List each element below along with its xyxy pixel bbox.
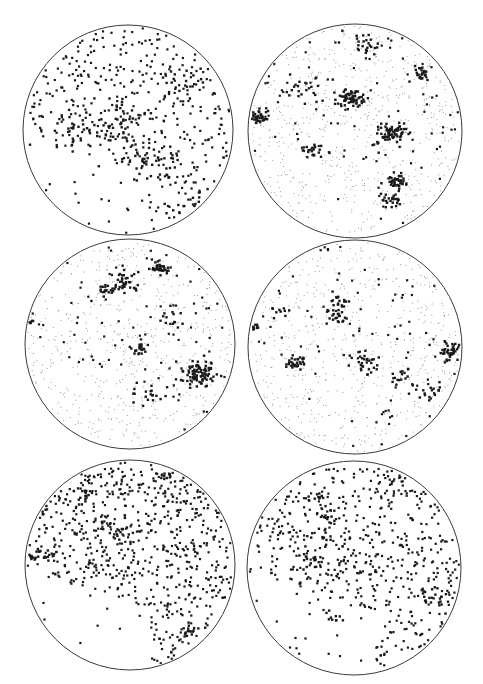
panel-outline — [248, 24, 462, 238]
point-cloud — [251, 243, 460, 452]
sky-panel-b — [248, 24, 462, 238]
sky-panel-e — [25, 460, 235, 670]
panel-outline — [25, 239, 235, 449]
sky-panel-a — [23, 25, 233, 235]
figure-canvas — [0, 0, 483, 684]
point-cloud — [249, 468, 460, 667]
point-cloud — [28, 243, 232, 445]
sky-panel-c — [25, 239, 235, 449]
sky-panel-d — [248, 240, 462, 454]
point-cloud — [251, 26, 460, 233]
sky-panel-f — [247, 461, 461, 675]
point-cloud — [27, 462, 232, 665]
panel-outline — [248, 240, 462, 454]
point-cloud — [29, 27, 230, 234]
